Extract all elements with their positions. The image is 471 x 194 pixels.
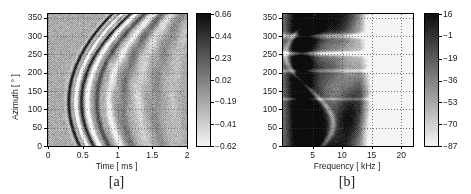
colorbar-tick-mark	[211, 124, 214, 125]
colorbar-tick-mark	[439, 14, 442, 15]
colorbar-tick-mark	[439, 59, 442, 60]
y-tick-label: 200	[247, 68, 277, 77]
y-tick-label: 100	[247, 105, 277, 114]
figure-root: 00.511.52050100150200250300350 Azimuth […	[0, 0, 471, 194]
panel-a-colorbar	[196, 13, 211, 147]
y-tick-mark	[279, 109, 282, 110]
y-tick-label: 50	[12, 123, 42, 132]
y-tick-mark	[44, 36, 47, 37]
x-tick-mark	[342, 146, 343, 149]
panel-a-heatmap-image	[48, 14, 187, 146]
x-tick-mark	[372, 146, 373, 149]
y-tick-label: 300	[247, 32, 277, 41]
y-tick-mark	[44, 146, 47, 147]
x-tick-mark	[118, 146, 119, 149]
y-tick-label: 300	[12, 32, 42, 41]
x-tick-mark	[48, 146, 49, 149]
y-tick-mark	[279, 18, 282, 19]
colorbar-tick-mark	[439, 36, 442, 37]
colorbar-tick-label: 0.66	[215, 10, 249, 19]
y-tick-mark	[44, 128, 47, 129]
panel-a-tag: [a]	[47, 174, 186, 189]
y-tick-mark	[279, 36, 282, 37]
panel-b-colorbar-gradient	[425, 14, 438, 146]
colorbar-tick-mark	[439, 124, 442, 125]
colorbar-tick-label: 0.02	[215, 76, 249, 85]
panel-b-heatmap-image	[283, 14, 413, 146]
x-tick-mark	[401, 146, 402, 149]
colorbar-tick-mark	[439, 81, 442, 82]
colorbar-tick-label: −70	[443, 120, 471, 129]
x-tick-mark	[83, 146, 84, 149]
colorbar-tick-mark	[439, 102, 442, 103]
x-tick-mark	[152, 146, 153, 149]
colorbar-tick-mark	[211, 58, 214, 59]
y-tick-mark	[44, 54, 47, 55]
colorbar-tick-mark	[211, 37, 214, 38]
y-tick-label: 50	[247, 123, 277, 132]
colorbar-tick-mark	[211, 80, 214, 81]
colorbar-tick-mark	[211, 146, 214, 147]
colorbar-tick-label: 0.23	[215, 54, 249, 63]
y-tick-mark	[279, 54, 282, 55]
panel-b-colorbar	[424, 13, 439, 147]
panel-a-colorbar-gradient	[197, 14, 210, 146]
y-tick-mark	[44, 109, 47, 110]
panel-a-plot-area	[47, 13, 188, 147]
colorbar-tick-mark	[211, 14, 214, 15]
x-tick-label: 2	[167, 151, 207, 160]
colorbar-tick-label: −87	[443, 142, 471, 151]
colorbar-tick-label: −53	[443, 98, 471, 107]
y-tick-mark	[44, 91, 47, 92]
y-tick-label: 350	[247, 13, 277, 22]
panel-a-y-axis-label: Azimuth [ ° ]	[10, 74, 20, 120]
colorbar-tick-label: 0.44	[215, 32, 249, 41]
panel-b-tag: [b]	[282, 174, 412, 189]
colorbar-tick-label: −36	[443, 76, 471, 85]
x-tick-mark	[313, 146, 314, 149]
colorbar-tick-mark	[439, 146, 442, 147]
y-tick-mark	[44, 73, 47, 74]
colorbar-tick-mark	[211, 102, 214, 103]
y-tick-mark	[279, 73, 282, 74]
y-tick-label: 350	[12, 13, 42, 22]
colorbar-tick-label: −1	[443, 31, 471, 40]
colorbar-tick-label: −0.62	[215, 142, 249, 151]
y-tick-mark	[279, 146, 282, 147]
y-tick-label: 0	[12, 142, 42, 151]
x-tick-label: 20	[381, 151, 421, 160]
x-tick-mark	[187, 146, 188, 149]
colorbar-tick-label: −0.19	[215, 97, 249, 106]
y-tick-mark	[44, 18, 47, 19]
panel-a-x-axis-label: Time [ ms ]	[47, 161, 186, 171]
y-tick-label: 250	[12, 50, 42, 59]
y-tick-label: 150	[247, 87, 277, 96]
panel-b-plot-area	[282, 13, 414, 147]
y-tick-mark	[279, 91, 282, 92]
panel-b-x-axis-label: Frequency [ kHz ]	[282, 161, 412, 171]
y-tick-label: 250	[247, 50, 277, 59]
colorbar-tick-label: −0.41	[215, 120, 249, 129]
y-tick-label: 0	[247, 142, 277, 151]
colorbar-tick-label: 16	[443, 10, 471, 19]
y-tick-mark	[279, 128, 282, 129]
colorbar-tick-label: −19	[443, 54, 471, 63]
